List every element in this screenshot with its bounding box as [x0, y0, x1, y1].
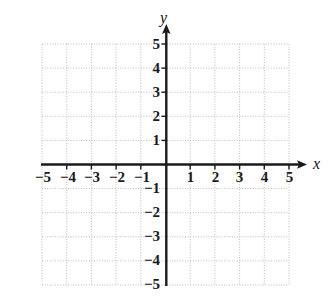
y-axis-line	[162, 24, 171, 286]
x-tick-label-5: 5	[282, 170, 297, 185]
x-tick-label-4: 4	[257, 170, 272, 185]
x-tick-label-3: 3	[232, 170, 247, 185]
coordinate-plane-figure: −5 −4 −3 −2 −1 1 2 3 4 5 5 4 3 2 1 −1 −2…	[0, 0, 329, 305]
y-tick-label-4: 4	[146, 61, 160, 76]
y-tick-label--2: −2	[138, 205, 160, 220]
x-axis-label: x	[313, 156, 320, 172]
y-tick-label-5: 5	[146, 37, 160, 52]
coordinate-plane-svg	[0, 0, 329, 305]
x-tick-label-1: 1	[183, 170, 198, 185]
y-tick-label-2: 2	[146, 109, 160, 124]
y-axis-label: y	[160, 10, 167, 26]
x-tick-label--3: −3	[81, 170, 103, 185]
x-tick-label--2: −2	[106, 170, 128, 185]
y-tick-label-3: 3	[146, 85, 160, 100]
x-axis-line	[41, 160, 307, 169]
x-tick-label--5: −5	[32, 170, 54, 185]
x-tick-label-2: 2	[208, 170, 223, 185]
y-tick-label-1: 1	[146, 133, 160, 148]
x-tick-label--4: −4	[57, 170, 79, 185]
y-tick-label--4: −4	[138, 253, 160, 268]
y-tick-label--3: −3	[138, 229, 160, 244]
y-tick-label--1: −1	[138, 181, 160, 196]
y-tick-label--5: −5	[138, 277, 160, 292]
